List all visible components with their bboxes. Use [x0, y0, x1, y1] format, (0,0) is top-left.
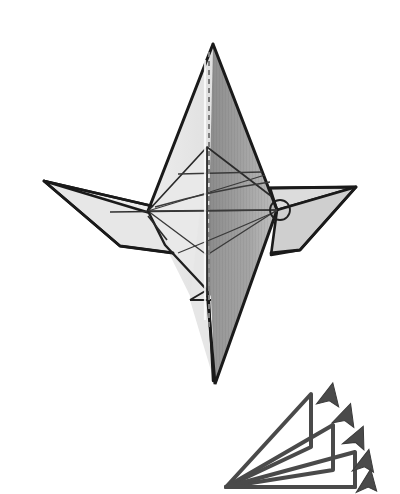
- figure-root: Origami Step Diagram: [0, 0, 400, 494]
- origami-diagram-svg: [0, 0, 400, 494]
